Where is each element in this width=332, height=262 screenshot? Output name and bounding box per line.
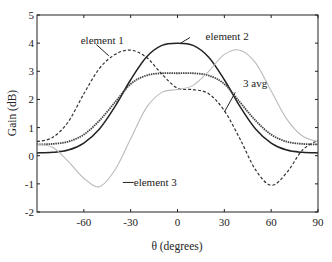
series-line-3-avg (37, 73, 318, 144)
annotation-3-avg: 3 avg (243, 77, 268, 89)
series-line-element-1 (37, 50, 318, 185)
gain-vs-angle-chart: element 1element 23 avgelement 3 -60-300… (0, 0, 332, 262)
x-tick-label: 60 (266, 216, 278, 228)
x-tick-label: 0 (175, 216, 181, 228)
annotation-leader (224, 92, 235, 112)
y-tick-label: 1 (29, 122, 35, 134)
x-tick-label: 30 (219, 216, 231, 228)
y-tick-label: 5 (29, 9, 35, 21)
y-tick-label: 0 (29, 150, 35, 162)
series-line-element-3 (37, 50, 318, 187)
y-tick-label: 3 (29, 65, 35, 77)
x-tick-label: -60 (76, 216, 91, 228)
annotation-leader (181, 38, 190, 44)
axes: -60-300306090-2-1012345 (25, 9, 324, 228)
annotation-element-3: element 3 (134, 176, 178, 188)
x-tick-label: 90 (313, 216, 325, 228)
annotation-element-2: element 2 (206, 30, 249, 42)
y-tick-label: -1 (25, 178, 34, 190)
x-axis-label: θ (degrees) (151, 240, 202, 253)
x-tick-label: -30 (123, 216, 138, 228)
y-tick-label: -2 (25, 206, 34, 218)
y-tick-label: 4 (29, 37, 35, 49)
y-tick-label: 2 (29, 93, 35, 105)
axes-frame (37, 15, 318, 212)
series-layer (37, 43, 318, 187)
y-axis-label: Gain (dB) (6, 90, 19, 136)
annotation-element-1: element 1 (81, 34, 124, 46)
